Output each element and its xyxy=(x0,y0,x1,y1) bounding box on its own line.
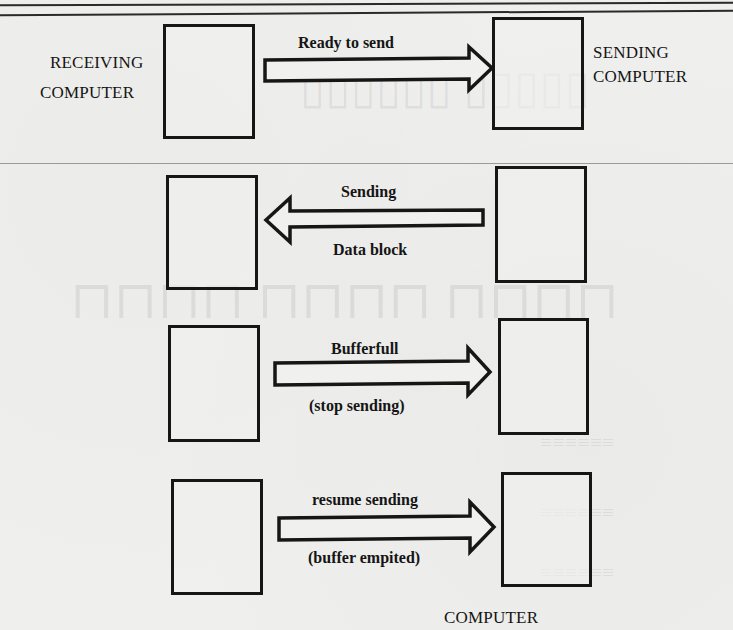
step2-label-bottom: Data block xyxy=(333,242,407,258)
arrow-right-icon xyxy=(272,341,492,401)
scanned-page: ▯▯▯▯▯▯ ▯▯▯▯▯ ⊓⊓⊓⊓ ⊓⊓⊓⊓ ⊓⊓⊓⊓ ≡≡≡≡≡≡ ≡≡≡≡≡… xyxy=(0,0,733,630)
receiving-computer-box xyxy=(163,24,255,139)
section-divider xyxy=(0,163,733,164)
sending-box-step2 xyxy=(495,166,587,283)
top-rule-2 xyxy=(0,10,733,16)
receiving-box-step3 xyxy=(168,325,260,442)
receiving-computer-label-line2: COMPUTER xyxy=(40,84,134,101)
receiving-box-step4 xyxy=(171,479,263,595)
arrow-right-icon xyxy=(262,40,492,100)
bottom-computer-label: COMPUTER xyxy=(444,609,538,626)
step4-label-bottom: (buffer empited) xyxy=(308,550,420,566)
step3-label-bottom: (stop sending) xyxy=(309,398,405,414)
sending-computer-box xyxy=(492,17,584,130)
sending-box-step3 xyxy=(498,318,589,435)
sending-computer-label-line2: COMPUTER xyxy=(593,68,687,85)
sending-box-step4 xyxy=(501,472,592,587)
sending-computer-label-line1: SENDING xyxy=(593,44,669,61)
receiving-box-step2 xyxy=(166,175,258,290)
top-rule xyxy=(0,2,733,7)
receiving-computer-label-line1: RECEIVING xyxy=(50,54,143,71)
